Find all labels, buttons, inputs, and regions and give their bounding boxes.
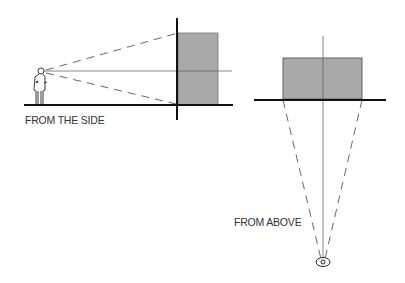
- perspective-diagram: [0, 0, 405, 283]
- top-object-rect: [283, 58, 362, 99]
- side-sightline-top: [46, 33, 178, 70]
- eye-icon: [316, 258, 330, 267]
- top-sightline-left: [283, 100, 321, 259]
- side-sightline-bottom: [46, 73, 176, 104]
- side-object-rect: [178, 33, 218, 105]
- side-view-label: FROM THE SIDE: [25, 114, 104, 126]
- top-view: [254, 36, 386, 267]
- side-view: [24, 18, 233, 120]
- person-icon: [34, 68, 47, 104]
- top-sightline-right: [325, 100, 362, 259]
- top-view-label: FROM ABOVE: [234, 216, 301, 228]
